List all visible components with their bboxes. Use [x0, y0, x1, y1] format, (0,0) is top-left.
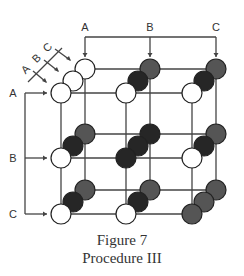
left-label-c: C	[9, 208, 17, 220]
arrow-head-icon	[43, 91, 47, 96]
arrow-head-icon	[83, 53, 88, 57]
depth-label-b: B	[29, 51, 43, 65]
figure-caption-title: Figure 7	[0, 232, 244, 249]
figure-caption-subtitle: Procedure III	[0, 250, 244, 267]
left-label-b: B	[9, 152, 16, 164]
depth-label-c: C	[40, 40, 54, 54]
top-label-a: A	[81, 21, 89, 33]
sphere-front	[182, 148, 202, 168]
sphere-front	[182, 83, 202, 103]
top-label-c: C	[212, 21, 220, 33]
sphere-front	[116, 148, 136, 168]
sphere-front	[51, 83, 71, 103]
arrow-head-icon	[43, 156, 47, 161]
sphere-front	[116, 204, 136, 224]
arrow-head-icon	[43, 212, 47, 217]
arrow-head-icon	[66, 56, 71, 61]
lattice-diagram: ABCABCABC	[0, 0, 244, 240]
arrow-head-icon	[214, 53, 219, 57]
sphere-front	[182, 204, 202, 224]
sphere-front	[116, 83, 136, 103]
arrow-head-icon	[148, 53, 153, 57]
top-label-b: B	[146, 21, 153, 33]
depth-label-a: A	[18, 62, 32, 76]
left-label-a: A	[9, 87, 17, 99]
sphere-front	[51, 148, 71, 168]
sphere-front	[51, 204, 71, 224]
